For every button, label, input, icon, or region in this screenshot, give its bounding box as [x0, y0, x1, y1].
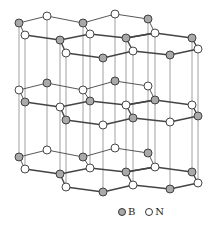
atomic-layers	[15, 10, 202, 196]
nitrogen-atom-icon	[21, 165, 29, 173]
bond	[25, 102, 60, 107]
nitrogen-atom-icon	[86, 164, 94, 172]
boron-atom-icon	[166, 185, 174, 193]
legend-label-b: B	[128, 206, 135, 217]
bond	[66, 53, 103, 58]
boron-atom-icon	[188, 168, 196, 176]
nitrogen-swatch-icon	[145, 208, 153, 216]
legend: B N	[118, 206, 164, 217]
nitrogen-atom-icon	[43, 146, 51, 154]
bond	[47, 83, 83, 90]
boron-atom-icon	[99, 188, 107, 196]
bond	[155, 33, 192, 38]
nitrogen-atom-icon	[144, 82, 152, 90]
nitrogen-atom-icon	[111, 10, 119, 18]
bond	[60, 168, 90, 174]
nitrogen-atom-icon	[111, 144, 119, 152]
bond	[155, 100, 192, 105]
bond	[66, 120, 103, 125]
boron-atom-icon	[122, 168, 130, 176]
bond	[103, 51, 133, 58]
boron-atom-icon	[56, 170, 64, 178]
bond	[90, 168, 126, 172]
nitrogen-atom-icon	[15, 86, 23, 94]
nitrogen-atom-icon	[194, 179, 202, 187]
nitrogen-atom-icon	[166, 118, 174, 126]
bond	[103, 185, 133, 192]
bond	[115, 81, 148, 86]
boron-atom-icon	[15, 153, 23, 161]
nitrogen-atom-icon	[86, 30, 94, 38]
bond	[60, 101, 90, 107]
bond	[115, 14, 148, 19]
boron-atom-icon	[144, 15, 152, 23]
boron-atom-icon	[21, 98, 29, 106]
layer-1	[15, 10, 202, 62]
boron-atom-icon	[56, 36, 64, 44]
nitrogen-atom-icon	[43, 12, 51, 20]
nitrogen-atom-icon	[62, 183, 70, 191]
boron-atom-icon	[129, 114, 137, 122]
bond	[66, 187, 103, 192]
nitrogen-atom-icon	[129, 47, 137, 55]
bond	[90, 101, 126, 105]
bond	[47, 150, 83, 157]
boron-atom-icon	[122, 34, 130, 42]
bond	[133, 118, 170, 122]
bond	[83, 81, 115, 90]
boron-atom-icon	[79, 19, 87, 27]
bond	[90, 34, 126, 38]
bond	[133, 185, 170, 189]
bond	[60, 34, 90, 40]
layer-3	[15, 144, 202, 196]
boron-atom-icon	[79, 153, 87, 161]
boron-atom-icon	[62, 116, 70, 124]
nitrogen-atom-icon	[79, 86, 87, 94]
nitrogen-atom-icon	[122, 101, 130, 109]
boron-atom-icon	[166, 51, 174, 59]
nitrogen-atom-icon	[56, 103, 64, 111]
boron-swatch-icon	[118, 208, 126, 216]
nitrogen-atom-icon	[194, 45, 202, 53]
bond	[83, 14, 115, 23]
bond	[25, 169, 60, 174]
bond	[47, 16, 83, 23]
bond	[155, 167, 192, 172]
boron-atom-icon	[99, 54, 107, 62]
hbn-crystal-diagram	[0, 0, 213, 227]
boron-atom-icon	[194, 112, 202, 120]
nitrogen-atom-icon	[99, 121, 107, 129]
nitrogen-atom-icon	[62, 49, 70, 57]
boron-atom-icon	[111, 77, 119, 85]
bond	[115, 148, 148, 153]
layer-2	[15, 77, 202, 129]
legend-label-n: N	[155, 206, 164, 217]
nitrogen-atom-icon	[151, 163, 159, 171]
nitrogen-atom-icon	[21, 31, 29, 39]
boron-atom-icon	[151, 96, 159, 104]
nitrogen-atom-icon	[151, 29, 159, 37]
boron-atom-icon	[144, 149, 152, 157]
boron-atom-icon	[15, 19, 23, 27]
bond	[25, 35, 60, 40]
nitrogen-atom-icon	[188, 101, 196, 109]
boron-atom-icon	[43, 79, 51, 87]
bond	[103, 118, 133, 125]
bond	[83, 148, 115, 157]
bond	[133, 51, 170, 55]
boron-atom-icon	[188, 34, 196, 42]
boron-atom-icon	[86, 97, 94, 105]
nitrogen-atom-icon	[129, 181, 137, 189]
